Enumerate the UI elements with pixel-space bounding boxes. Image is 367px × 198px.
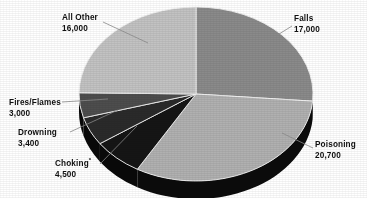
slice-label-fires-flames-name: Fires/Flames [9, 98, 61, 109]
slice-label-falls: Falls 17,000 [294, 14, 320, 35]
slice-label-fires-flames: Fires/Flames 3,000 [9, 98, 61, 119]
slice-label-choking-value: 4,500 [55, 170, 91, 181]
footnote-marker-icon: * [89, 157, 92, 163]
slice-label-falls-value: 17,000 [294, 25, 320, 36]
slice-label-drowning-name: Drowning [18, 128, 57, 139]
slice-label-choking-name: Choking* [55, 159, 91, 170]
pie-chart: All Other 16,000 Falls 17,000 Poisoning … [0, 0, 367, 198]
slice-label-choking: Choking* 4,500 [55, 159, 91, 180]
slice-label-all-other-name: All Other [62, 13, 98, 24]
slice-label-all-other: All Other 16,000 [62, 13, 98, 34]
slice-label-falls-name: Falls [294, 14, 320, 25]
slice-label-poisoning-name: Poisoning [315, 140, 356, 151]
slice-label-choking-text: Choking [55, 159, 89, 168]
slice-label-all-other-value: 16,000 [62, 24, 98, 35]
slice-label-poisoning-value: 20,700 [315, 151, 356, 162]
slice-label-poisoning: Poisoning 20,700 [315, 140, 356, 161]
slice-label-fires-flames-value: 3,000 [9, 109, 61, 120]
slice-label-drowning-value: 3,400 [18, 139, 57, 150]
slice-label-drowning: Drowning 3,400 [18, 128, 57, 149]
pie-slices [79, 7, 313, 181]
